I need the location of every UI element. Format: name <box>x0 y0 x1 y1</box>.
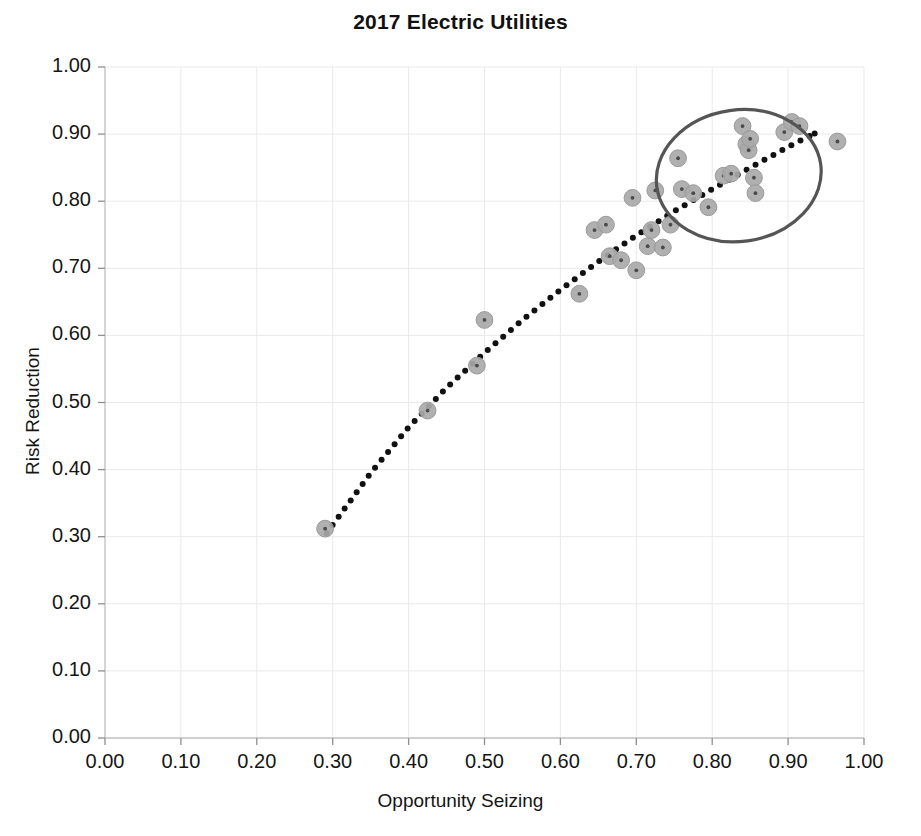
x-tick-label: 0.50 <box>445 750 525 773</box>
data-point <box>662 216 679 233</box>
x-axis-title: Opportunity Seizing <box>0 790 921 812</box>
x-tick-label: 1.00 <box>824 750 904 773</box>
chart-figure: 2017 Electric Utilities 0.000.100.200.30… <box>0 0 921 836</box>
y-tick-label: 0.20 <box>11 591 91 614</box>
y-tick-label: 0.90 <box>11 121 91 144</box>
x-tick-label: 0.90 <box>748 750 828 773</box>
y-tick-label: 0.00 <box>11 725 91 748</box>
data-point <box>829 133 846 150</box>
data-point <box>746 169 763 186</box>
data-point <box>598 216 615 233</box>
data-point <box>419 402 436 419</box>
y-axis-title: Risk Reduction <box>22 347 44 475</box>
data-point <box>476 312 493 329</box>
x-tick-label: 0.80 <box>672 750 752 773</box>
x-tick-label: 0.70 <box>596 750 676 773</box>
x-tick-label: 0.30 <box>293 750 373 773</box>
y-tick-label: 0.80 <box>11 188 91 211</box>
x-tick-label: 0.20 <box>217 750 297 773</box>
data-point <box>747 185 764 202</box>
x-tick-label: 0.00 <box>65 750 145 773</box>
data-point <box>571 285 588 302</box>
data-point <box>643 222 660 239</box>
data-point <box>628 262 645 279</box>
y-tick-label: 0.10 <box>11 658 91 681</box>
x-tick-label: 0.60 <box>520 750 600 773</box>
data-point <box>613 252 630 269</box>
data-point <box>742 130 759 147</box>
data-point <box>685 185 702 202</box>
x-tick-label: 0.40 <box>369 750 449 773</box>
gridlines-group <box>105 67 864 738</box>
data-point <box>654 239 671 256</box>
y-tick-label: 0.30 <box>11 524 91 547</box>
x-tick-label: 0.10 <box>141 750 221 773</box>
data-point <box>700 199 717 216</box>
y-tick-label: 0.60 <box>11 322 91 345</box>
y-tick-label: 0.70 <box>11 255 91 278</box>
data-point <box>670 150 687 167</box>
data-point <box>317 520 334 537</box>
data-points-group <box>317 114 846 537</box>
data-point <box>624 189 641 206</box>
data-point <box>469 357 486 374</box>
data-point <box>723 165 740 182</box>
trendline <box>324 130 818 536</box>
y-tick-label: 1.00 <box>11 54 91 77</box>
data-point <box>639 238 656 255</box>
scatter-plot-canvas <box>0 0 921 836</box>
